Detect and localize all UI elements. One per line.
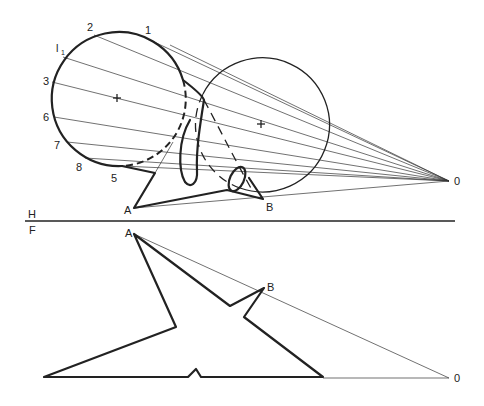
right-sphere-outline [203,58,329,192]
label-front-A: A [125,227,133,239]
label-top-O: 0 [454,175,460,187]
front-ray-A-O [134,234,449,378]
label-point-5: 5 [111,172,117,184]
label-point-3: 3 [43,75,49,87]
label-point-l1: l [56,42,58,54]
label-fold-H: H [28,208,36,220]
label-front-O: 0 [454,372,460,384]
label-point-2: 2 [87,21,93,33]
label-top-B: B [266,201,273,213]
left-center-mark [113,94,121,102]
label-point-1: 1 [145,24,151,36]
front-view [44,234,449,378]
label-fold-F: F [29,224,36,236]
label-point-6: 6 [43,111,49,123]
label-point-l1-sub: 1 [61,49,65,56]
front-figure-outline [44,234,323,377]
shadow-construction-diagram: 1 2 l 1 3 6 7 8 5 A B 0 H F A B 0 [0,0,484,406]
label-point-7: 7 [54,139,60,151]
label-top-A: A [124,204,132,216]
label-point-8: 8 [76,161,82,173]
label-front-B: B [267,281,274,293]
